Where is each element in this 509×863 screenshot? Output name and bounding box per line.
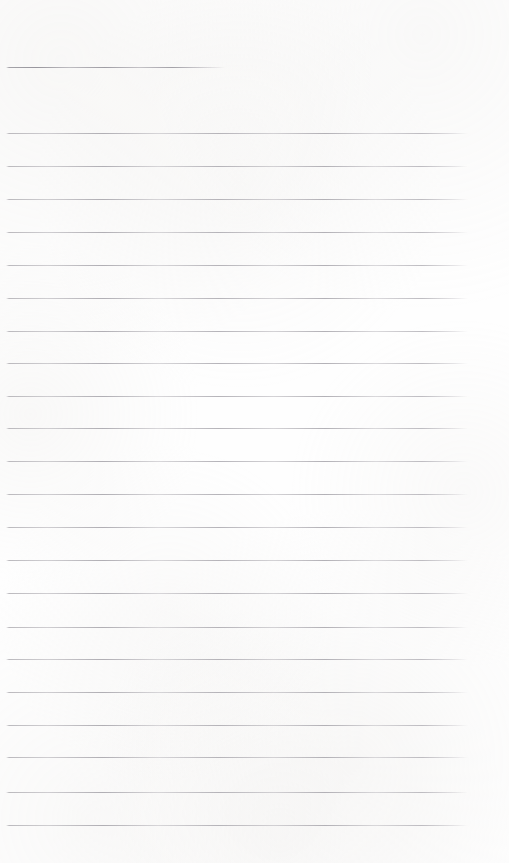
body-rule xyxy=(6,232,468,233)
body-rule xyxy=(6,692,468,693)
body-rule xyxy=(6,527,468,528)
body-rule xyxy=(6,725,468,726)
body-rule xyxy=(6,627,468,628)
body-rule xyxy=(6,331,468,332)
body-rule xyxy=(6,593,468,594)
body-rule xyxy=(6,396,468,397)
body-rule xyxy=(6,265,468,266)
body-rule xyxy=(6,166,468,167)
header-rule xyxy=(6,67,225,68)
body-rule xyxy=(6,363,468,364)
body-rule xyxy=(6,133,468,134)
body-rule xyxy=(6,792,468,793)
body-rule xyxy=(6,825,468,826)
body-rule xyxy=(6,199,468,200)
body-rule xyxy=(6,494,468,495)
paper-texture xyxy=(0,0,509,863)
body-rule xyxy=(6,428,468,429)
body-rule xyxy=(6,659,468,660)
body-rule xyxy=(6,757,468,758)
body-rule xyxy=(6,560,468,561)
scanned-page xyxy=(0,0,509,863)
body-rule xyxy=(6,298,468,299)
body-rule xyxy=(6,461,468,462)
